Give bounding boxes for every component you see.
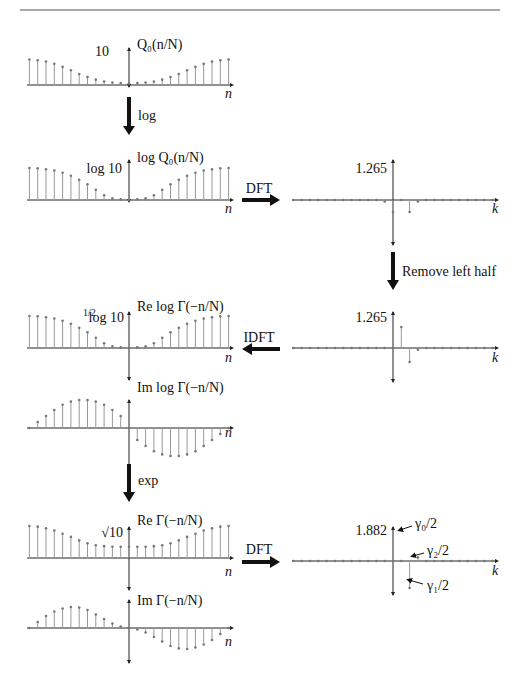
stem-plot-dft_logq0	[292, 159, 499, 246]
stem-plot-im_gamma	[27, 599, 234, 664]
step-idft: IDFT	[243, 330, 275, 345]
stem-plot-re_gamma	[27, 525, 234, 591]
step-remove: Remove left half	[402, 264, 496, 279]
axis-n-4: n	[225, 425, 232, 440]
pointer-gamma0	[400, 526, 412, 530]
arrow-dft-2-head	[270, 556, 280, 568]
annot-gamma1: γ₁/2	[426, 578, 449, 593]
annot-gamma2: γ₂/2	[426, 543, 449, 558]
axis-k-1: k	[492, 201, 499, 216]
tick-dft-logq0: 1.265	[356, 161, 388, 176]
stem-plots	[27, 47, 499, 664]
tick-half-spectrum: 1.265	[356, 310, 388, 325]
axis-n-6: n	[225, 634, 232, 649]
tick-q0: 10	[95, 44, 109, 59]
tick-re-gamma: √10	[101, 525, 123, 540]
axis-n-2: n	[225, 201, 232, 216]
arrow-log-head	[123, 126, 135, 135]
pointer-gamma1	[409, 580, 423, 584]
title-re-log-gamma: Re log Γ(−n/N)	[137, 299, 224, 315]
tick-re-log-gamma: log 10	[89, 310, 124, 325]
stem-plot-im_log_gamma	[27, 399, 234, 471]
step-log: log	[138, 108, 156, 123]
title-im-log-gamma: Im log Γ(−n/N)	[137, 380, 224, 396]
axis-n-5: n	[225, 564, 232, 579]
axis-k-3: k	[492, 563, 499, 578]
tick-logq0: log 10	[87, 161, 122, 176]
step-dft-1: DFT	[246, 181, 273, 196]
axis-k-2: k	[492, 350, 499, 365]
dft-pipeline-diagram: 10 Q₀(n/N) n log log 10 log Q₀(n/N) n DF…	[0, 0, 526, 696]
stem-plot-half_spectrum	[292, 311, 499, 383]
stem-plot-re_log_gamma	[27, 311, 234, 381]
tick-gamma-spectrum: 1.882	[356, 523, 388, 538]
title-q0: Q₀(n/N)	[137, 37, 183, 53]
arrow-exp-head	[123, 492, 135, 502]
arrow-dft-1-head	[270, 194, 280, 206]
stem-plot-gamma_spectrum	[292, 526, 499, 596]
arrow-remove-head	[387, 280, 399, 290]
stem-plot-logq0	[27, 159, 234, 203]
annot-gamma0: γ₀/2	[414, 516, 437, 531]
axis-n-3: n	[225, 350, 232, 365]
pointer-gamma2	[413, 553, 424, 556]
stem-plot-q0	[27, 47, 234, 88]
title-logq0: log Q₀(n/N)	[137, 150, 204, 166]
step-exp: exp	[138, 473, 158, 488]
step-dft-2: DFT	[246, 542, 273, 557]
title-re-gamma: Re Γ(−n/N)	[137, 513, 203, 529]
title-im-gamma: Im Γ(−n/N)	[137, 593, 203, 609]
axis-n-1: n	[225, 86, 232, 101]
